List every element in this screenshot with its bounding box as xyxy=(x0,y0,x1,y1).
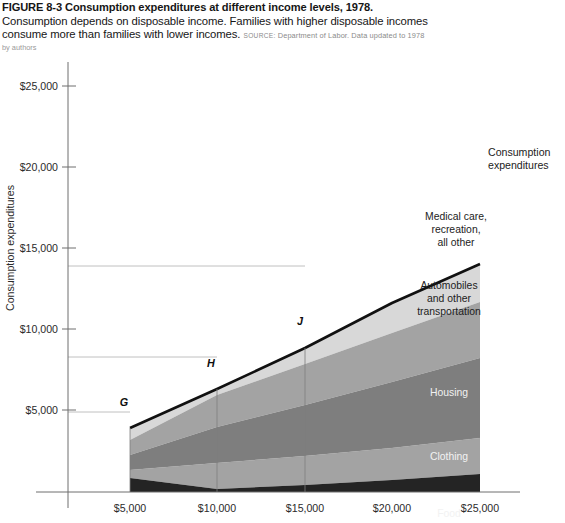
series-annotation-line-2: expenditures xyxy=(488,159,549,171)
chart-area: $25,000 $20,000 $15,000 $10,000 $5,000 C… xyxy=(0,52,565,523)
stacked-area-chart: $25,000 $20,000 $15,000 $10,000 $5,000 C… xyxy=(0,52,565,523)
figure-caption: FIGURE 8-3 Consumption expenditures at d… xyxy=(2,1,562,52)
y-axis-ticks xyxy=(62,86,76,410)
x-tick-label-5000: $5,000 xyxy=(114,502,147,514)
series-annotation-consumption-expenditures: Consumption expenditures xyxy=(488,146,551,171)
figure-description-2: consume more than families with lower in… xyxy=(2,28,240,40)
caption-title-line: FIGURE 8-3 Consumption expenditures at d… xyxy=(2,1,562,15)
y-axis-tick-labels: $25,000 $20,000 $15,000 $10,000 $5,000 xyxy=(20,80,58,416)
y-tick-label-25000: $25,000 xyxy=(20,80,58,92)
caption-description-line-2: consume more than families with lower in… xyxy=(2,28,562,43)
y-tick-label-5000: $5,000 xyxy=(26,404,59,416)
point-label-G: G xyxy=(120,396,129,408)
figure-title: FIGURE 8-3 Consumption expenditures at d… xyxy=(2,1,373,13)
band-label-housing: Housing xyxy=(430,387,468,398)
point-label-J: J xyxy=(297,315,304,327)
band-label-clothing: Clothing xyxy=(430,451,468,462)
y-tick-label-15000: $15,000 xyxy=(20,242,58,254)
x-tick-label-20000: $20,000 xyxy=(373,502,411,514)
band-label-medical-care: Medical care, recreation, all other xyxy=(425,211,487,248)
caption-description-line-1: Consumption depends on disposable income… xyxy=(2,15,562,29)
source-label: SOURCE: xyxy=(243,32,275,39)
x-tick-label-15000: $15,000 xyxy=(286,502,324,514)
series-annotation-line-1: Consumption xyxy=(488,146,551,158)
band-label-automobiles-line-1: Automobiles xyxy=(420,280,477,291)
band-label-medical-line-1: Medical care, xyxy=(425,211,487,222)
point-label-H: H xyxy=(207,357,215,369)
y-tick-label-10000: $10,000 xyxy=(20,323,58,335)
band-label-automobiles-line-2: and other xyxy=(427,293,471,304)
band-label-food: Food xyxy=(437,508,461,519)
y-axis-title: Consumption expenditures xyxy=(4,185,16,311)
band-label-medical-line-2: recreation, xyxy=(431,224,480,235)
y-tick-label-20000: $20,000 xyxy=(20,161,58,173)
x-tick-label-10000: $10,000 xyxy=(198,502,236,514)
figure-root: FIGURE 8-3 Consumption expenditures at d… xyxy=(0,0,565,523)
x-tick-label-25000: $25,000 xyxy=(461,502,499,514)
band-label-automobiles-line-3: transportation xyxy=(417,306,481,317)
figure-description-1: Consumption depends on disposable income… xyxy=(2,15,428,27)
band-label-medical-line-3: all other xyxy=(438,237,476,248)
figure-byline: by authors xyxy=(2,43,562,52)
source-text: Department of Labor. Data updated to 197… xyxy=(278,31,425,40)
